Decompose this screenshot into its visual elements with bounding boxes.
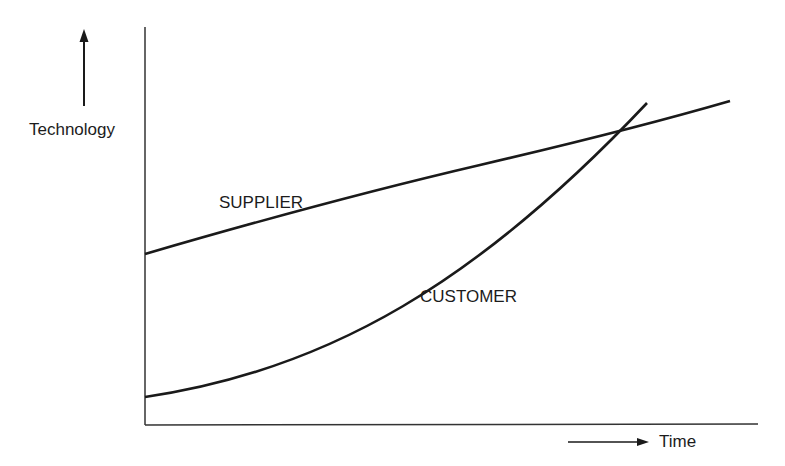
y-axis-arrowhead-icon [80, 29, 89, 42]
supplier-label: SUPPLIER [219, 194, 303, 211]
customer-curve [145, 103, 647, 397]
technology-time-diagram [0, 0, 785, 466]
y-axis-label: Technology [29, 121, 115, 138]
x-axis-label: Time [659, 433, 696, 450]
x-axis-arrowhead-icon [637, 438, 649, 446]
supplier-curve [145, 101, 730, 254]
x-axis [145, 424, 758, 425]
customer-label: CUSTOMER [420, 288, 517, 305]
